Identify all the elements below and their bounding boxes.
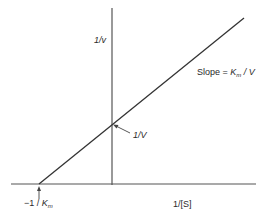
x-intercept-sub: m bbox=[48, 203, 53, 209]
x-intercept-k: K bbox=[42, 198, 48, 208]
x-axis-label-text: 1/[S] bbox=[173, 199, 192, 209]
slope-sub: m bbox=[236, 72, 241, 78]
y-intercept-label: 1/V bbox=[133, 130, 147, 140]
y-intercept-text: 1/V bbox=[133, 130, 147, 140]
y-axis-label-text: 1/v bbox=[94, 35, 106, 45]
x-intercept-label: −1 / Km bbox=[24, 198, 53, 209]
y-axis-label: 1/v bbox=[94, 35, 106, 45]
slope-prefix: Slope = bbox=[197, 67, 230, 77]
lineweaver-burk-plot bbox=[0, 0, 267, 223]
x-intercept-prefix: −1 / bbox=[24, 198, 42, 208]
slope-label: Slope = Km / V bbox=[197, 67, 255, 78]
plot-line bbox=[39, 18, 244, 184]
y-intercept-arrow-icon bbox=[113, 125, 130, 134]
x-axis-label: 1/[S] bbox=[173, 199, 192, 209]
slope-suffix: / V bbox=[241, 67, 255, 77]
